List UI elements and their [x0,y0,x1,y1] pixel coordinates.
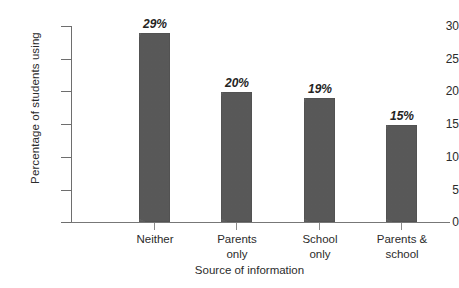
y-tick-20 [61,91,72,92]
y-tick-15 [61,124,72,125]
x-tick-label-parents-and-school-line2: school [352,247,452,262]
x-tick-parents-only [236,223,237,230]
x-axis-line [71,222,450,223]
bar-label-parents-only: 20% [197,76,277,90]
bar-chart: Percentage of students using 30 25 20 15… [0,0,459,288]
x-tick-label-parents-and-school-line1: Parents & [352,232,452,247]
bar-parents-only [221,92,252,222]
y-tick-25 [61,59,72,60]
y-tick-label-25: 25 [403,52,459,66]
y-tick-label-20: 20 [403,84,459,98]
x-tick-parents-and-school [401,223,402,230]
bar-label-neither: 29% [115,17,195,31]
bar-school-only [304,98,335,222]
bar-label-school-only: 19% [280,82,360,96]
y-tick-label-30: 30 [403,19,459,33]
x-tick-neither [154,223,155,230]
x-axis-title: Source of information [0,264,459,276]
bar-label-parents-and-school: 15% [362,109,442,123]
y-tick-10 [61,157,72,158]
bar-neither [139,33,170,222]
bar-parents-and-school [386,125,417,222]
y-tick-30 [61,26,72,27]
x-tick-school-only [319,223,320,230]
x-tick-label-parents-and-school: Parents & school [352,232,452,262]
y-axis-title: Percentage of students using [29,3,41,213]
y-tick-5 [61,190,72,191]
